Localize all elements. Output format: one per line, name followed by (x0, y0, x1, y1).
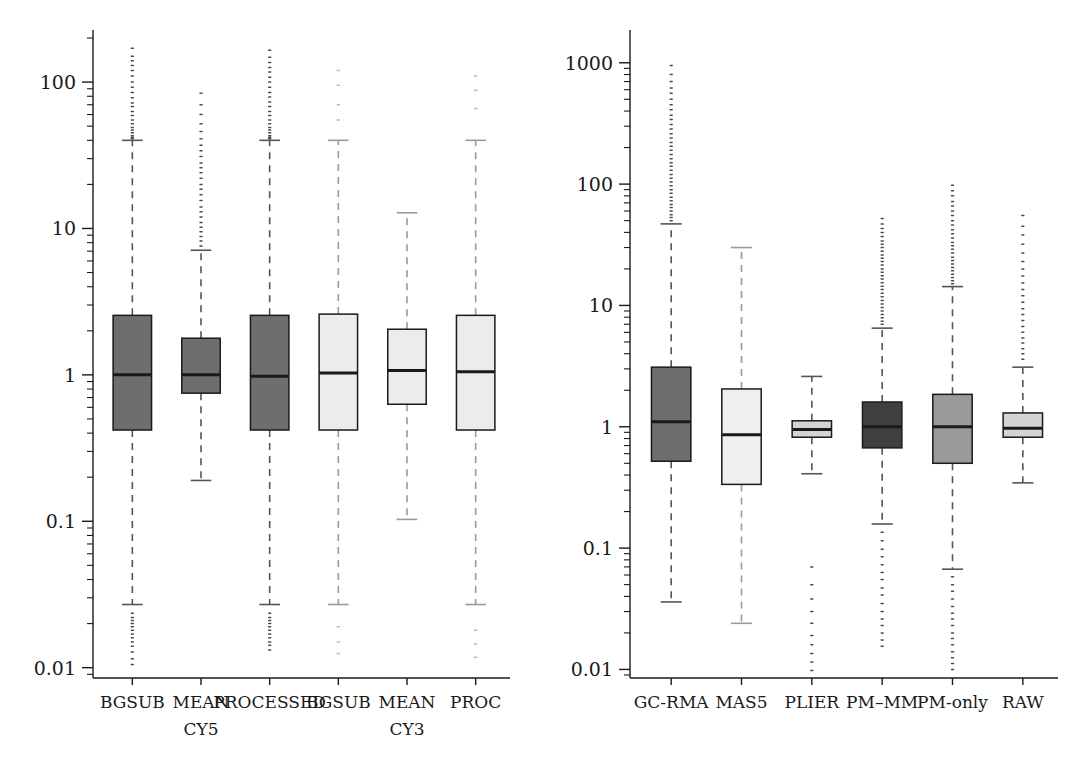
boxplot-figure: 1001010.10.01BGSUBMEANCY5PROCESSEDBGSUBM… (0, 0, 1075, 762)
x-tick-label: PM-only (917, 692, 988, 712)
box-iqr (722, 389, 761, 484)
boxplot-plier (792, 376, 831, 685)
x-tick-label: RAW (1002, 692, 1044, 712)
y-tick-label: 0.01 (571, 658, 613, 680)
box-iqr (933, 394, 972, 463)
y-tick-label: 100 (577, 173, 613, 195)
y-tick-label: 10 (589, 294, 613, 316)
y-tick-label: 0.01 (34, 657, 76, 679)
box-iqr (1003, 413, 1042, 437)
box-iqr (250, 315, 288, 430)
boxplot-pm-only (933, 185, 972, 685)
boxplot-raw (1003, 216, 1042, 685)
box-iqr (113, 315, 151, 430)
boxplot-proc (456, 76, 494, 685)
y-tick-label: 1000 (565, 52, 613, 74)
x-tick-label: CY3 (389, 719, 424, 739)
boxplot-mas5 (722, 248, 761, 685)
box-iqr (182, 338, 220, 393)
x-tick-label: PM–MM (846, 692, 918, 712)
panel-right: 10001001010.10.01GC-RMAMAS5PLIERPM–MMPM-… (530, 0, 1075, 762)
x-tick-label: MAS5 (715, 692, 767, 712)
box-iqr (651, 367, 690, 461)
y-tick-label: 10 (52, 217, 76, 239)
box-iqr (862, 402, 901, 448)
panel-left: 1001010.10.01BGSUBMEANCY5PROCESSEDBGSUBM… (0, 0, 530, 762)
y-tick-label: 0.1 (46, 510, 76, 532)
y-tick-label: 0.1 (583, 537, 613, 559)
y-tick-label: 1 (64, 364, 76, 386)
boxplot-mean-cy5 (182, 93, 220, 685)
boxplot-bgsub (113, 48, 151, 685)
x-tick-label: PLIER (785, 692, 841, 712)
x-tick-label: BGSUB (306, 692, 371, 712)
boxplot-bgsub (319, 70, 357, 685)
panel-right-canvas: 10001001010.10.01GC-RMAMAS5PLIERPM–MMPM-… (530, 0, 1075, 762)
boxplot-gc-rma (651, 65, 690, 685)
x-tick-label: BGSUB (100, 692, 165, 712)
x-tick-label: MEAN (379, 692, 436, 712)
boxplot-mean-cy3 (388, 213, 426, 685)
x-tick-label: PROC (450, 692, 501, 712)
x-tick-label: GC-RMA (634, 692, 710, 712)
y-tick-label: 100 (40, 71, 76, 93)
boxplot-pm-mm (862, 219, 901, 685)
boxplot-processed (250, 50, 288, 685)
box-iqr (388, 329, 426, 404)
y-tick-label: 1 (601, 416, 613, 438)
panel-left-canvas: 1001010.10.01BGSUBMEANCY5PROCESSEDBGSUBM… (0, 0, 530, 762)
x-tick-label: CY5 (183, 719, 218, 739)
